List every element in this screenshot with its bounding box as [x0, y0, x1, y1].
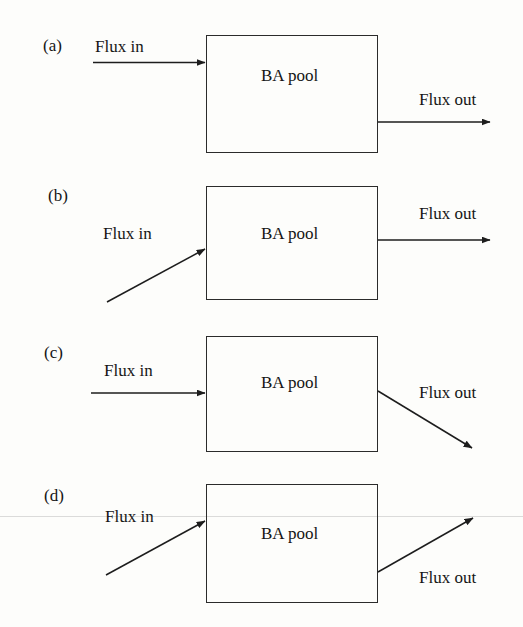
panel-c-label: (c) [44, 344, 63, 361]
panel-c-box-label: BA pool [261, 374, 318, 391]
panel-d-outflow-arrow [378, 518, 473, 572]
panel-c-pool-box [206, 336, 378, 452]
panel-b-outflow-label: Flux out [419, 205, 476, 222]
panel-c-inflow-label: Flux in [104, 362, 153, 379]
panel-d-outflow-label: Flux out [419, 569, 476, 586]
panel-b-pool-box [206, 186, 378, 300]
panel-d-label: (d) [44, 487, 64, 504]
panel-b-box-label: BA pool [261, 225, 318, 242]
panel-a-pool-box [206, 35, 378, 153]
panel-b-inflow-label: Flux in [103, 225, 152, 242]
panel-b-label: (b) [48, 187, 68, 204]
panel-d-inflow-arrow [106, 521, 205, 575]
panel-a-outflow-label: Flux out [419, 91, 476, 108]
panel-a-label: (a) [43, 37, 62, 54]
panel-d-inflow-label: Flux in [105, 508, 154, 525]
panel-b-inflow-arrow [107, 249, 205, 302]
figure-canvas: (a) Flux in BA pool Flux out (b) Flux in… [0, 0, 523, 627]
panel-c-outflow-label: Flux out [419, 384, 476, 401]
panel-a-inflow-label: Flux in [95, 38, 144, 55]
panel-d-box-label: BA pool [261, 525, 318, 542]
panel-a-box-label: BA pool [261, 67, 318, 84]
panel-d-pool-box [206, 484, 378, 603]
